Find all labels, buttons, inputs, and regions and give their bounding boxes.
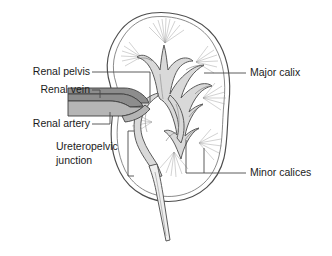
- label-ureteropelvic-junction-line1: Ureteropelvic: [56, 140, 118, 152]
- label-renal-artery: Renal artery: [33, 117, 91, 129]
- label-minor-calices: Minor calices: [250, 166, 311, 178]
- label-renal-pelvis: Renal pelvis: [33, 65, 90, 77]
- label-renal-vein: Renal vein: [40, 83, 90, 95]
- label-ureteropelvic-junction-line2: junction: [55, 154, 92, 166]
- label-major-calix: Major calix: [250, 66, 301, 78]
- kidney-anatomy-diagram: Renal pelvis Renal vein Renal artery Ure…: [0, 0, 332, 256]
